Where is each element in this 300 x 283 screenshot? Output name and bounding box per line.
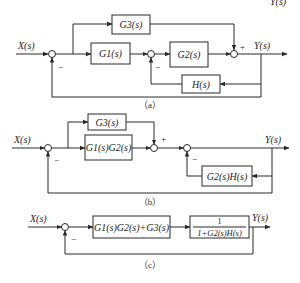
b-sum1-minus-sign: − (54, 155, 59, 165)
a-feedback-to-h (220, 54, 261, 84)
b-g3-label: G3(s) (96, 117, 119, 129)
c-output-label: Y(s) (252, 212, 269, 224)
a-sum3-plus-sign: + (240, 42, 245, 52)
b-g2h-label: G2(s)H(s) (207, 171, 248, 183)
c-closed-denominator: 1+G2(s)H(s) (197, 228, 242, 238)
a-g2-label: G2(s) (178, 49, 201, 61)
block-diagram-canvas: Y(s) X(s) − G3(s) G1(s) − G2(s) + Y(s) H… (0, 0, 300, 283)
b-caption: （b） (139, 197, 162, 207)
a-sum2-minus-sign: − (155, 62, 160, 72)
b-output-label: Y(s) (265, 134, 282, 146)
a-summing-junction-3 (231, 51, 238, 58)
b-summing-junction-1 (45, 145, 52, 152)
c-caption: （c） (139, 260, 161, 270)
a-g1-label: G1(s) (99, 48, 122, 60)
b-sum3-minus-sign: − (192, 154, 197, 164)
top-fragment-label: Y(s) (270, 0, 287, 8)
a-summing-junction-2 (148, 51, 155, 58)
diagram-c: X(s) − G1(s)G2(s)+G3(s) 1 1+G2(s)H(s) Y(… (28, 212, 270, 270)
a-output-label: Y(s) (254, 40, 271, 52)
diagram-a: X(s) − G3(s) G1(s) − G2(s) + Y(s) H(s) （… (16, 15, 287, 110)
a-sum1-minus-sign: − (58, 62, 63, 72)
b-g1g2-label: G1(s)G2(s) (86, 142, 132, 154)
a-h-label: H(s) (191, 79, 210, 91)
a-g3-label: G3(s) (120, 19, 143, 31)
a-summing-junction-1 (49, 51, 56, 58)
a-caption: （a） (139, 100, 161, 110)
b-input-label: X(s) (13, 134, 31, 146)
c-summing-junction-1 (62, 224, 69, 231)
b-summing-junction-3 (184, 145, 191, 152)
b-summing-junction-2 (151, 145, 158, 152)
c-sum1-minus-sign: − (71, 234, 76, 244)
c-closed-numerator: 1 (218, 217, 222, 226)
diagram-b: X(s) − G3(s) G1(s)G2(s) + − Y(s) G2(s)H(… (12, 114, 289, 207)
b-sum2-plus-sign: + (161, 134, 166, 144)
b-feedback-to-g2h (252, 148, 272, 176)
c-input-label: X(s) (29, 213, 47, 225)
c-forward-label: G1(s)G2(s)+G3(s) (94, 222, 170, 234)
a-input-label: X(s) (17, 40, 35, 52)
